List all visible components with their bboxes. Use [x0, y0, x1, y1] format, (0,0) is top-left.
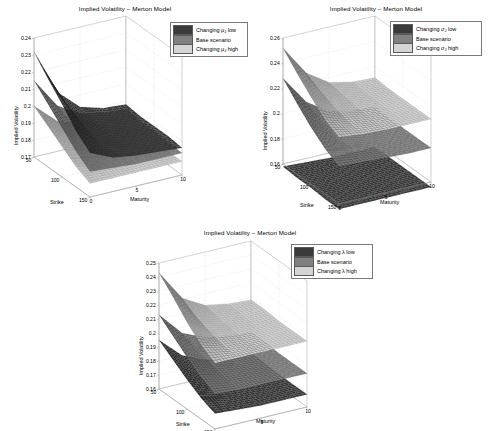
legend-swatch-icon: [393, 24, 413, 34]
legend-label: Changing σJ high: [416, 44, 458, 53]
page-title: Implied Volatility – Merton Model: [0, 5, 250, 12]
legend-label: Changing λ low: [317, 248, 355, 256]
svg-text:0.24: 0.24: [270, 60, 280, 66]
svg-text:0.18: 0.18: [146, 358, 156, 364]
legend-label: Changing μJ low: [196, 26, 236, 35]
svg-text:0.22: 0.22: [270, 85, 280, 91]
svg-text:100: 100: [176, 409, 185, 415]
svg-text:0.24: 0.24: [21, 35, 31, 41]
svg-text:0.22: 0.22: [146, 302, 156, 308]
z-axis-label: Maturity: [256, 418, 275, 424]
surface-plot-lambda: 0.160.170.180.190.20.210.220.230.240.255…: [145, 247, 305, 419]
chart-panel-sigma-j: Implied Volatility – Merton Model 0.160.…: [251, 0, 501, 215]
legend-label: Base scenario: [196, 36, 231, 44]
chart-panel-mu-j: Implied Volatility – Merton Model 0.170.…: [0, 0, 250, 215]
svg-text:0.23: 0.23: [21, 52, 31, 58]
svg-text:0.18: 0.18: [21, 137, 31, 143]
legend-swatch-icon: [294, 247, 314, 257]
z-axis-label: Maturity: [380, 199, 399, 205]
legend-item[interactable]: Changing λ high: [294, 267, 370, 276]
svg-text:10: 10: [305, 408, 311, 414]
legend-swatch-icon: [173, 25, 193, 35]
legend-item[interactable]: Changing σJ high: [393, 44, 479, 53]
legend-item[interactable]: Changing λ low: [294, 248, 370, 257]
svg-text:0.2: 0.2: [273, 110, 280, 116]
svg-text:0.21: 0.21: [146, 316, 156, 322]
legend-item[interactable]: Base scenario: [393, 34, 479, 43]
svg-text:0.18: 0.18: [270, 136, 280, 142]
svg-text:0.25: 0.25: [146, 260, 156, 266]
svg-text:0: 0: [90, 198, 93, 204]
svg-text:0.19: 0.19: [146, 344, 156, 350]
z-axis-label: Maturity: [130, 196, 149, 202]
legend-mu-j: Changing μJ lowBase scenarioChanging μJ …: [170, 22, 248, 57]
svg-text:0.23: 0.23: [146, 288, 156, 294]
x-axis-label: Strike: [50, 199, 64, 205]
y-axis-label: Implied Volatility: [262, 111, 268, 150]
legend-item[interactable]: Changing μJ low: [173, 26, 245, 35]
legend-lambda: Changing λ lowBase scenarioChanging λ hi…: [291, 244, 373, 279]
svg-text:0.2: 0.2: [149, 330, 156, 336]
page-title: Implied Volatility – Merton Model: [125, 229, 375, 236]
svg-text:0.2: 0.2: [24, 103, 31, 109]
legend-item[interactable]: Changing μJ high: [173, 45, 245, 54]
y-axis-label: Implied Volatility: [138, 336, 144, 375]
svg-text:0.17: 0.17: [146, 372, 156, 378]
svg-text:0.24: 0.24: [146, 274, 156, 280]
legend-label: Changing μJ high: [196, 45, 238, 54]
legend-swatch-icon: [173, 35, 193, 45]
legend-label: Base scenario: [317, 258, 352, 266]
plot-area-mu-j: 0.170.180.190.20.210.220.230.24501001500…: [20, 22, 180, 187]
legend-swatch-icon: [173, 44, 193, 54]
legend-swatch-icon: [294, 257, 314, 267]
legend-swatch-icon: [393, 43, 413, 53]
svg-text:100: 100: [51, 177, 60, 183]
svg-text:50: 50: [275, 164, 281, 170]
svg-text:10: 10: [429, 183, 435, 189]
svg-text:10: 10: [180, 176, 186, 182]
legend-label: Changing σJ low: [416, 25, 456, 34]
chart-panel-lambda: Implied Volatility – Merton Model 0.160.…: [125, 205, 375, 431]
legend-item[interactable]: Changing σJ low: [393, 25, 479, 34]
svg-text:50: 50: [26, 157, 32, 163]
svg-text:0.26: 0.26: [270, 35, 280, 41]
svg-text:50: 50: [151, 389, 157, 395]
svg-text:5: 5: [136, 187, 139, 193]
x-axis-label: Strike: [176, 421, 190, 427]
legend-swatch-icon: [393, 34, 413, 44]
legend-swatch-icon: [294, 266, 314, 276]
svg-text:100: 100: [300, 184, 309, 190]
legend-sigma-j: Changing σJ lowBase scenarioChanging σJ …: [390, 21, 482, 56]
legend-item[interactable]: Base scenario: [173, 35, 245, 44]
plot-area-lambda: 0.160.170.180.190.20.210.220.230.240.255…: [145, 247, 305, 419]
legend-item[interactable]: Base scenario: [294, 257, 370, 266]
svg-text:150: 150: [79, 197, 88, 203]
legend-label: Changing λ high: [317, 267, 357, 275]
y-axis-label: Implied Volatility: [13, 106, 19, 145]
surface-plot-mu-j: 0.170.180.190.20.210.220.230.24501001500…: [20, 22, 180, 187]
svg-text:0.19: 0.19: [21, 120, 31, 126]
legend-label: Base scenario: [416, 35, 451, 43]
svg-text:0.21: 0.21: [21, 86, 31, 92]
svg-text:0.22: 0.22: [21, 69, 31, 75]
page-title: Implied Volatility – Merton Model: [251, 5, 501, 12]
